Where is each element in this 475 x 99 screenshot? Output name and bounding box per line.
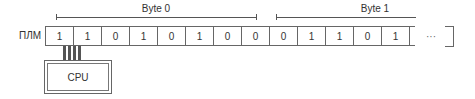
bus-line (68, 46, 71, 60)
bit-cell: 0 (353, 26, 381, 46)
bit-cell: 0 (101, 26, 129, 46)
bit-cell: 1 (297, 26, 325, 46)
bus-line (78, 46, 81, 60)
continuation-bottom-stub (409, 45, 415, 46)
bit-cell: 1 (45, 26, 73, 46)
byte-1-bracket-line (276, 17, 416, 18)
continuation-cell-left-border (409, 26, 410, 46)
ellipsis: ··· (418, 26, 444, 46)
row-label: ПЛМ (19, 30, 41, 41)
continuation-top-stub (409, 26, 415, 27)
bit-cell: 0 (241, 26, 269, 46)
bit-cell: 1 (73, 26, 101, 46)
bit-cell: 1 (185, 26, 213, 46)
cpu-box: CPU (44, 60, 112, 94)
bit-cell: 1 (129, 26, 157, 46)
byte-0-start-tick (56, 14, 57, 20)
bit-cell: 0 (157, 26, 185, 46)
cpu-label: CPU (47, 63, 109, 91)
byte-1-start-tick (276, 14, 277, 20)
bit-cell: 1 (381, 26, 409, 46)
byte-0-end-tick (256, 14, 257, 20)
byte-1-label: Byte 1 (361, 3, 389, 14)
bit-cell: 1 (325, 26, 353, 46)
bit-cell: 0 (269, 26, 297, 46)
bus-line (73, 46, 76, 60)
bus-line (63, 46, 66, 60)
bit-cell: 0 (213, 26, 241, 46)
byte-0-label: Byte 0 (142, 3, 170, 14)
closing-bracket (445, 26, 454, 47)
byte-0-bracket-line (56, 17, 256, 18)
